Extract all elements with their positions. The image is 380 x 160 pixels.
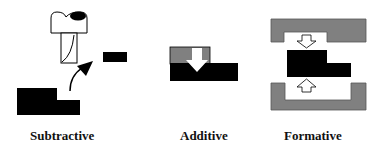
stepped-workpiece-icon [17,88,80,115]
chip-icon [103,52,127,62]
upper-die-icon [271,19,366,42]
formative-label: Formative [284,128,342,144]
formed-part-icon [287,50,351,77]
curved-arrow-icon [70,61,93,91]
formative-illustration [271,19,366,110]
down-arrow-icon [297,35,316,48]
subtractive-illustration [17,12,127,116]
cutter-top-ellipse [70,12,86,21]
milling-cutter-icon [51,12,87,64]
subtractive-label: Subtractive [30,128,94,144]
base-block-icon [170,63,238,81]
additive-label: Additive [180,128,228,144]
up-arrow-icon [297,79,316,92]
additive-illustration [170,47,238,81]
lower-die-icon [271,83,366,110]
